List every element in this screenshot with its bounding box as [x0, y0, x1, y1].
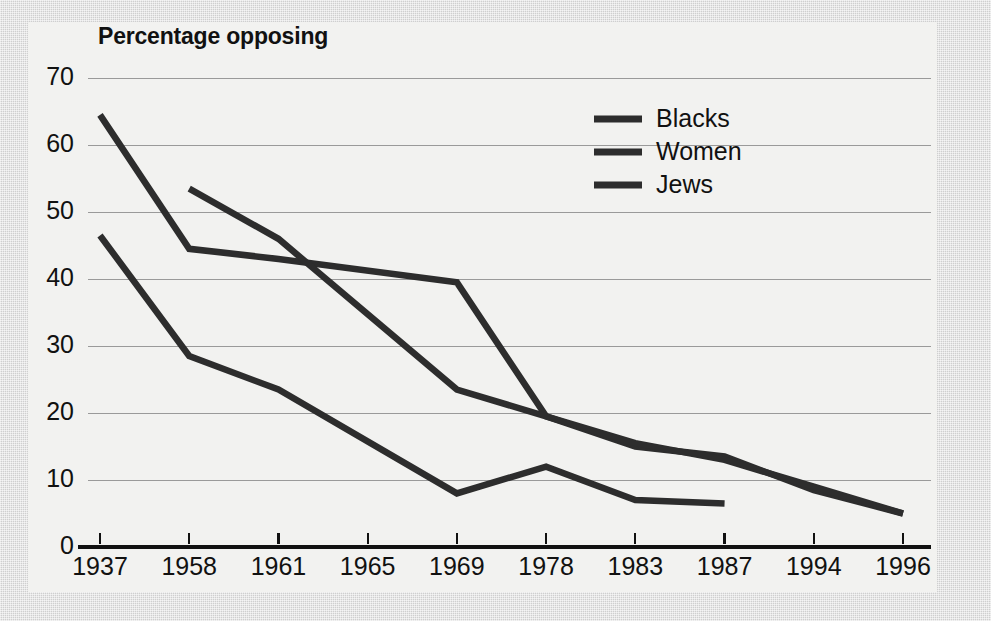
- x-tick-label: 1996: [875, 552, 931, 580]
- x-tick-label: 1983: [608, 552, 664, 580]
- x-tick-label: 1994: [786, 552, 842, 580]
- chart-legend: BlacksWomenJews: [594, 104, 742, 198]
- chart-title: Percentage opposing: [98, 23, 328, 49]
- y-tick-label: 10: [46, 464, 74, 492]
- legend-label-women: Women: [656, 137, 742, 165]
- x-tick-label: 1937: [72, 552, 128, 580]
- line-chart: 010203040506070 193719581961196519691978…: [28, 22, 937, 592]
- y-axis-tick-labels: 010203040506070: [46, 62, 74, 559]
- chart-figure: 010203040506070 193719581961196519691978…: [0, 0, 991, 621]
- x-tick-label: 1961: [251, 552, 307, 580]
- legend-label-jews: Jews: [656, 170, 713, 198]
- y-tick-label: 60: [46, 129, 74, 157]
- y-tick-label: 30: [46, 330, 74, 358]
- data-series-lines: [100, 115, 903, 514]
- x-tick-label: 1958: [161, 552, 217, 580]
- x-tick-label: 1978: [518, 552, 574, 580]
- series-line-blacks: [100, 115, 903, 514]
- x-tick-label: 1969: [429, 552, 485, 580]
- x-tick-label: 1987: [697, 552, 753, 580]
- y-tick-label: 40: [46, 263, 74, 291]
- x-axis: [78, 533, 931, 547]
- grid-lines: [88, 78, 931, 480]
- x-axis-tick-labels: 1937195819611965196919781983198719941996: [72, 552, 931, 580]
- y-tick-label: 20: [46, 397, 74, 425]
- x-tick-label: 1965: [340, 552, 396, 580]
- plot-panel: 010203040506070 193719581961196519691978…: [28, 22, 937, 592]
- y-tick-label: 50: [46, 196, 74, 224]
- legend-label-blacks: Blacks: [656, 104, 730, 132]
- y-tick-label: 70: [46, 62, 74, 90]
